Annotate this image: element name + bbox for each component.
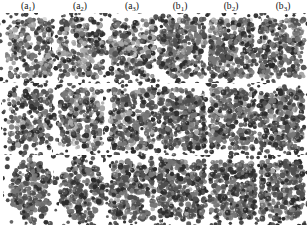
- panel-label-b3: (b3): [276, 1, 291, 13]
- particle-cluster: [252, 83, 307, 155]
- label-subscript: 2: [80, 5, 84, 13]
- label-base: (b: [224, 1, 232, 11]
- particle-cluster: [51, 13, 111, 83]
- label-subscript: 2: [232, 5, 236, 13]
- panel-label-b1: (b1): [173, 1, 188, 13]
- label-subscript: 3: [284, 5, 288, 13]
- particle-cluster: [1, 83, 59, 155]
- label-close: ): [184, 1, 187, 11]
- panel-label-b2: (b2): [224, 1, 239, 13]
- label-subscript: 1: [181, 5, 185, 13]
- panel-label-a2: (a2): [73, 1, 87, 13]
- panel-a1-row3: [3, 155, 59, 225]
- label-close: ): [136, 1, 139, 11]
- label-subscript: 3: [132, 5, 136, 13]
- panel-b3-row3: [252, 155, 307, 225]
- panel-b3-row2: [252, 83, 307, 155]
- label-close: ): [84, 1, 87, 11]
- label-subscript: 1: [28, 5, 32, 13]
- label-close: ): [235, 1, 238, 11]
- particle-cluster: [3, 155, 59, 225]
- panel-b3-row1: [252, 13, 307, 83]
- label-close: ): [287, 1, 290, 11]
- label-close: ): [32, 1, 35, 11]
- particle-cluster: [252, 155, 307, 225]
- figure-canvas: (a1)(a2)(a3)(b1)(b2)(b3): [0, 0, 307, 228]
- particle-cluster: [252, 13, 307, 83]
- panel-label-a1: (a1): [21, 1, 35, 13]
- label-base: (b: [276, 1, 284, 11]
- panel-label-a3: (a3): [125, 1, 139, 13]
- label-base: (b: [173, 1, 181, 11]
- panel-a2-row1: [51, 13, 111, 83]
- panel-a1-row2: [1, 83, 59, 155]
